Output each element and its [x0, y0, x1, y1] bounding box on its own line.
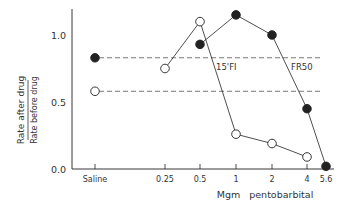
x-tick-label: 5.6 [320, 175, 333, 184]
y-axis-ticks: 0.00.51.0 [51, 30, 66, 175]
series-lines [165, 15, 326, 166]
x-tick-label: 4 [304, 175, 309, 184]
axes [72, 9, 334, 169]
y-tick-label: 0.5 [51, 97, 66, 108]
filled-circle-marker [268, 31, 277, 40]
y-axis-label: Rate after drug Rate before drug [16, 76, 39, 144]
filled-circle-marker [196, 40, 205, 49]
filled-circle-marker [232, 11, 241, 20]
open-circle-marker [303, 153, 312, 162]
open-circle-marker [161, 64, 170, 73]
y-tick-label: 0.0 [51, 164, 66, 175]
x-tick-label: 1 [233, 175, 238, 184]
y-axis-label-denominator: Rate before drug [30, 76, 39, 144]
filled-circle-marker [303, 104, 312, 113]
x-axis-ticks: Saline0.250.51245.6 [83, 164, 333, 184]
x-tick-label: 0.5 [194, 175, 207, 184]
x-tick-label: 2 [269, 175, 274, 184]
series-markers [91, 11, 331, 171]
open-circle-marker [268, 139, 277, 148]
annotation-15fi: 15'FI [216, 62, 237, 72]
saline-baselines [99, 58, 320, 92]
open-circle-marker [232, 130, 241, 139]
y-axis-label-numerator: Rate after drug [16, 76, 26, 144]
open-circle-marker [91, 87, 100, 96]
open-circle-marker [196, 17, 205, 26]
x-tick-label: Saline [83, 175, 107, 184]
filled-circle-marker [91, 53, 100, 62]
chart: 0.00.51.0 Saline0.250.51245.6 15'FI FR50… [0, 0, 349, 212]
annotation-fr50: FR50 [291, 62, 313, 72]
y-tick-label: 1.0 [51, 30, 66, 41]
x-axis-label: Mgm pentobarbital [217, 189, 314, 200]
filled-circle-marker [322, 162, 331, 171]
x-tick-label: 0.25 [156, 175, 174, 184]
series-line [200, 15, 326, 166]
